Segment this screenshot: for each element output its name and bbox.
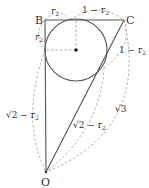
label-sqrt3: √3 xyxy=(115,104,127,114)
label-b-left: r2 xyxy=(35,32,43,43)
side-co xyxy=(46,20,124,172)
arc-sqrt3 xyxy=(46,20,129,172)
label-b: B xyxy=(35,14,43,27)
label-c-right: 1 − r2 xyxy=(119,45,146,56)
triangle xyxy=(45,20,124,172)
dashed-arcs xyxy=(33,10,129,172)
geometry-diagram: B C O r2 1 − r2 r2 1 − r2 √2 − r2 √2 − r… xyxy=(0,0,149,188)
label-co: √2 − r2 xyxy=(73,120,106,131)
arc-c-right xyxy=(104,20,127,68)
label-bo: √2 − r2 xyxy=(6,110,39,121)
label-o: O xyxy=(41,176,50,188)
point-o-dot xyxy=(45,171,47,173)
label-c-top: 1 − r2 xyxy=(82,5,109,16)
circle-center-dot xyxy=(74,48,78,52)
label-c: C xyxy=(126,14,134,27)
label-b-top: r2 xyxy=(51,6,59,17)
